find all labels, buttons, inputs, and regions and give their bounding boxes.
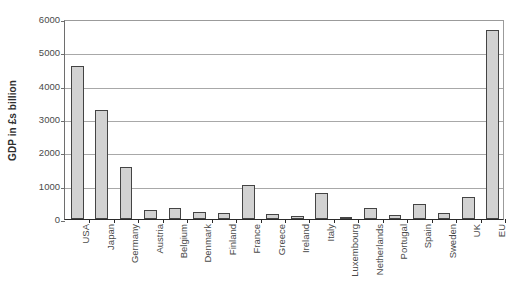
- y-axis-tick-mark: [61, 221, 65, 222]
- y-axis-title: GDP in £s billion: [0, 0, 24, 240]
- x-axis-tick-mark: [261, 219, 262, 223]
- x-axis-tick-mark: [505, 219, 506, 223]
- bar: [438, 213, 451, 219]
- y-axis-title-text: GDP in £s billion: [7, 80, 18, 161]
- bar: [120, 167, 133, 219]
- x-axis-tick-mark: [432, 219, 433, 223]
- y-axis-tick-label: 3000: [26, 115, 60, 125]
- x-axis-tick-mark: [358, 219, 359, 223]
- x-axis-tick-mark: [309, 219, 310, 223]
- y-axis-tick-label: 5000: [26, 48, 60, 58]
- x-axis-tick-mark: [236, 219, 237, 223]
- x-axis-tick-mark: [481, 219, 482, 223]
- bar: [315, 193, 328, 219]
- bar: [193, 212, 206, 219]
- plot-area: [64, 20, 504, 220]
- x-axis-tick-mark: [114, 219, 115, 223]
- gdp-bar-chart: GDP in £s billion 6000500040003000200010…: [0, 0, 516, 306]
- x-axis-tick-mark: [383, 219, 384, 223]
- x-axis-tick-mark: [456, 219, 457, 223]
- x-axis-tick-mark: [89, 219, 90, 223]
- x-axis-tick-mark: [163, 219, 164, 223]
- x-axis-category-labels: USAJapanGermanyAustriaBelgiumDenmarkFinl…: [64, 224, 504, 306]
- bar: [462, 197, 475, 219]
- bar: [340, 217, 353, 219]
- y-axis-tick-label: 0: [26, 215, 60, 225]
- x-axis-tick-mark: [334, 219, 335, 223]
- bar: [169, 208, 182, 219]
- bar: [71, 66, 84, 219]
- bar: [266, 214, 279, 219]
- y-axis-tick-label: 2000: [26, 148, 60, 158]
- y-axis-tick-label: 4000: [26, 82, 60, 92]
- x-axis-tick-mark: [187, 219, 188, 223]
- bar: [95, 110, 108, 219]
- bar: [218, 213, 231, 219]
- x-axis-tick-mark: [212, 219, 213, 223]
- x-axis-tick-mark: [285, 219, 286, 223]
- y-axis-tick-label: 1000: [26, 182, 60, 192]
- bar: [144, 210, 157, 219]
- bar: [413, 204, 426, 219]
- y-axis-tick-labels: 6000500040003000200010000: [26, 14, 60, 226]
- bar: [291, 216, 304, 219]
- bar: [242, 185, 255, 219]
- y-axis-tick-label: 6000: [26, 15, 60, 25]
- bar: [389, 215, 402, 219]
- x-axis-tick-mark: [138, 219, 139, 223]
- x-axis-category-label: EU: [496, 224, 516, 302]
- bar: [486, 30, 499, 219]
- bars-layer: [65, 21, 503, 219]
- x-axis-tick-mark: [407, 219, 408, 223]
- bar: [364, 208, 377, 219]
